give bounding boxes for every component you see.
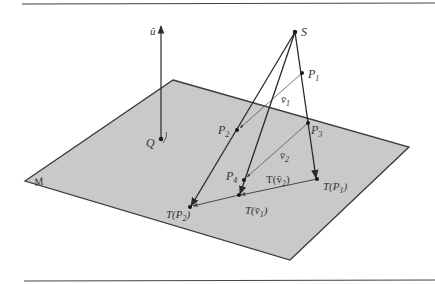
point-p1 (300, 71, 304, 75)
point-p3 (306, 121, 310, 125)
label-p1: P1 (307, 67, 319, 83)
point-s (293, 30, 297, 34)
label-q: Q (146, 136, 155, 150)
point-p4 (242, 178, 246, 182)
point-t-v1 (237, 193, 241, 197)
point-p2 (235, 128, 239, 132)
point-t-p1 (315, 177, 319, 181)
point-q (159, 137, 163, 141)
label-s: S (301, 25, 307, 39)
bottom-rule (24, 280, 435, 281)
top-rule (22, 3, 435, 4)
label-u-hat: û (150, 25, 156, 37)
label-v1: v̄1 (281, 93, 290, 108)
projection-diagram: û Q S M P1 P2 P3 P4 v̄1 v̄2 T(P1) T(P2) … (0, 0, 435, 284)
plane-m (25, 80, 409, 260)
